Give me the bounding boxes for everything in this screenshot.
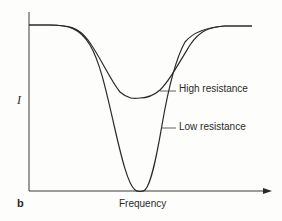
low-resistance-label: Low resistance bbox=[179, 121, 246, 132]
resonance-chart bbox=[0, 0, 282, 221]
panel-label: b bbox=[17, 197, 24, 209]
y-axis-label: I bbox=[17, 93, 21, 108]
x-axis-label: Frequency bbox=[119, 198, 166, 209]
x-axis-arrow-icon bbox=[263, 188, 272, 194]
low-resistance-curve bbox=[29, 25, 252, 192]
high-resistance-label: High resistance bbox=[179, 83, 248, 94]
